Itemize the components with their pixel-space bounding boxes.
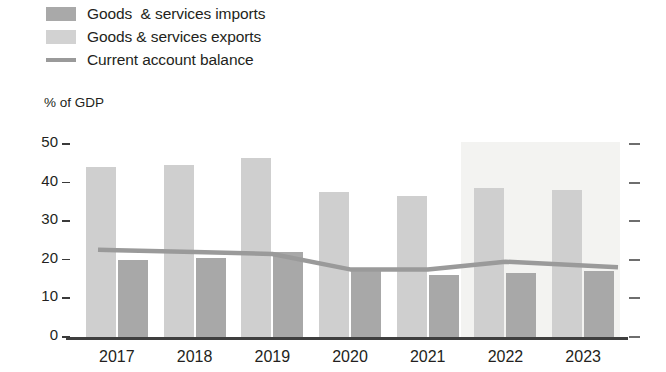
y-tick-dash-10 — [62, 297, 70, 299]
y-tick-dash-50 — [62, 143, 70, 145]
x-tick-label-2020: 2020 — [315, 348, 385, 366]
balance-line-layer — [0, 0, 666, 372]
y-tick-label-50: 50 — [28, 133, 58, 150]
y-tick-label-0: 0 — [28, 326, 58, 343]
y-tick-label-30: 30 — [28, 210, 58, 227]
x-tick-label-2023: 2023 — [548, 348, 618, 366]
y-tick-label-20: 20 — [28, 249, 58, 266]
y-tick-label-40: 40 — [28, 172, 58, 189]
x-tick-label-2022: 2022 — [470, 348, 540, 366]
y-tick-dash-20 — [62, 259, 70, 261]
chart-plot-area: 50403020100 2017201820192020202120222023 — [0, 0, 666, 372]
y-tick-dash-40 — [62, 182, 70, 184]
right-tick-dash-40 — [629, 182, 640, 184]
x-axis-baseline — [66, 337, 628, 340]
x-tick-label-2017: 2017 — [82, 348, 152, 366]
x-tick-label-2018: 2018 — [160, 348, 230, 366]
x-tick-label-2021: 2021 — [393, 348, 463, 366]
right-tick-dash-20 — [629, 259, 640, 261]
right-tick-dash-0 — [629, 336, 640, 338]
right-tick-dash-30 — [629, 220, 640, 222]
y-tick-label-10: 10 — [28, 287, 58, 304]
y-tick-dash-0 — [62, 336, 70, 338]
x-tick-label-2019: 2019 — [237, 348, 307, 366]
right-tick-dash-10 — [629, 297, 640, 299]
balance-line-path — [98, 250, 618, 270]
right-tick-dash-50 — [629, 143, 640, 145]
y-tick-dash-30 — [62, 220, 70, 222]
